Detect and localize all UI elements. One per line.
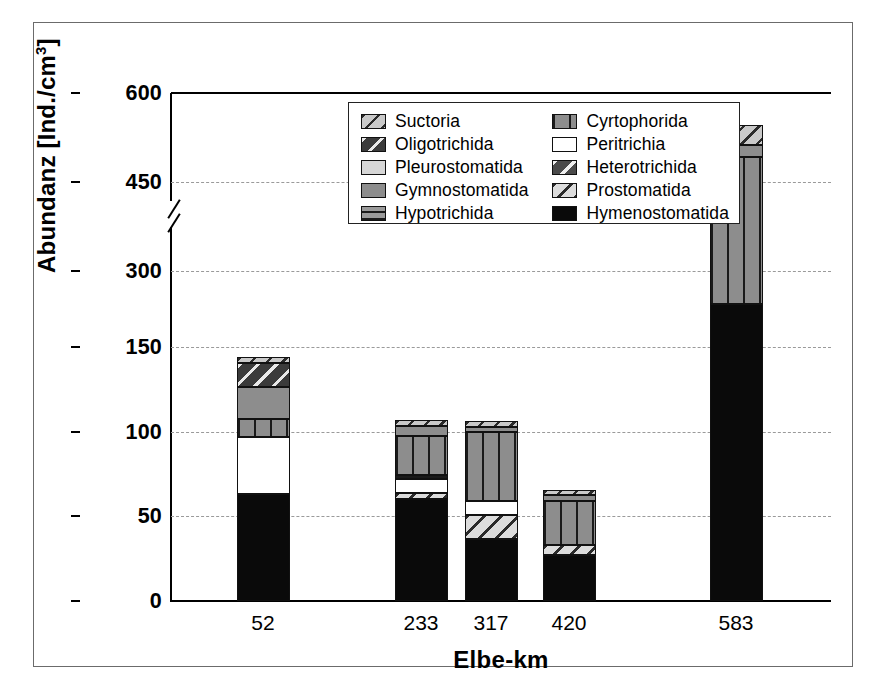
- x-axis-tick-label: 420: [551, 611, 586, 635]
- legend-grid: SuctoriaCyrtophoridaOligotrichidaPeritri…: [361, 110, 729, 225]
- legend-item-label: Suctoria: [395, 111, 460, 132]
- y-axis-tick-label: 600: [126, 81, 162, 106]
- legend-item-label: Heterotrichida: [586, 157, 696, 178]
- bar-stack[interactable]: [237, 357, 290, 601]
- legend-item[interactable]: Pleurostomatida: [361, 156, 536, 179]
- legend-item[interactable]: Peritrichia: [552, 133, 729, 156]
- bar-stack[interactable]: [543, 490, 596, 601]
- legend: SuctoriaCyrtophoridaOligotrichidaPeritri…: [348, 102, 740, 224]
- bar-segment[interactable]: [543, 501, 596, 545]
- bar-segment[interactable]: [465, 421, 518, 427]
- y-axis-tick: [71, 515, 80, 517]
- bar-segment[interactable]: [465, 432, 518, 501]
- bar-segment[interactable]: [395, 493, 448, 499]
- y-axis-tick-label: 100: [126, 419, 162, 444]
- legend-item[interactable]: Prostomatida: [552, 179, 729, 202]
- y-axis-title-main: Abundanz [Ind./cm: [33, 55, 60, 273]
- y-axis-tick: [71, 92, 80, 94]
- bar-segment[interactable]: [465, 501, 518, 515]
- legend-swatch-icon: [361, 114, 386, 129]
- bar-segment[interactable]: [710, 304, 763, 601]
- bar-stack[interactable]: [465, 421, 518, 601]
- y-axis-title: Abundanz [Ind./cm3]: [32, 0, 61, 273]
- bar-segment[interactable]: [543, 495, 596, 501]
- legend-item-label: Hymenostomatida: [586, 203, 729, 224]
- y-axis-tick-label: 0: [150, 589, 162, 614]
- legend-swatch-icon: [361, 160, 386, 175]
- x-axis-title: Elbe-km: [171, 646, 831, 674]
- bar-segment[interactable]: [395, 479, 448, 493]
- legend-item-label: Pleurostomatida: [395, 157, 523, 178]
- legend-item[interactable]: Oligotrichida: [361, 133, 536, 156]
- bar-segment[interactable]: [395, 475, 448, 479]
- bar-segment[interactable]: [395, 426, 448, 436]
- legend-item-label: Oligotrichida: [395, 134, 494, 155]
- legend-swatch-icon: [552, 114, 577, 129]
- legend-item[interactable]: Suctoria: [361, 110, 536, 133]
- legend-item-label: Prostomatida: [586, 180, 690, 201]
- bar-segment[interactable]: [465, 515, 518, 540]
- legend-item[interactable]: Heterotrichida: [552, 156, 729, 179]
- bar-segment[interactable]: [395, 436, 448, 475]
- legend-swatch-icon: [361, 183, 386, 198]
- legend-item[interactable]: Cyrtophorida: [552, 110, 729, 133]
- y-axis-tick-label: 150: [126, 335, 162, 360]
- bar-segment[interactable]: [237, 437, 290, 495]
- y-axis-title-exponent: 3: [32, 46, 49, 55]
- y-axis-title-bracket: ]: [33, 38, 60, 46]
- legend-item[interactable]: Gymnostomatida: [361, 179, 536, 202]
- legend-item-label: Gymnostomatida: [395, 180, 529, 201]
- y-axis-tick-label: 300: [126, 259, 162, 284]
- legend-swatch-icon: [552, 137, 577, 152]
- bar-segment[interactable]: [395, 499, 448, 601]
- bar-segment[interactable]: [543, 555, 596, 601]
- bar-segment[interactable]: [237, 363, 290, 387]
- y-axis-tick: [71, 600, 80, 602]
- bar-segment[interactable]: [237, 494, 290, 601]
- bar-segment[interactable]: [237, 387, 290, 419]
- y-axis-tick: [71, 270, 80, 272]
- bar-segment[interactable]: [395, 420, 448, 426]
- bar-stack[interactable]: [395, 420, 448, 601]
- bar-segment[interactable]: [543, 545, 596, 555]
- legend-swatch-icon: [361, 206, 386, 221]
- bar-segment[interactable]: [237, 357, 290, 363]
- y-axis-tick-label: 450: [126, 170, 162, 195]
- y-axis-tick: [71, 431, 80, 433]
- legend-item-label: Hypotrichida: [395, 203, 493, 224]
- legend-swatch-icon: [552, 160, 577, 175]
- y-axis-tick: [71, 181, 80, 183]
- legend-swatch-icon: [552, 183, 577, 198]
- legend-item-label: Cyrtophorida: [586, 111, 687, 132]
- y-axis-tick: [71, 346, 80, 348]
- legend-item[interactable]: Hymenostomatida: [552, 202, 729, 225]
- bar-segment[interactable]: [465, 539, 518, 601]
- bar-segment[interactable]: [237, 419, 290, 437]
- x-axis-tick-label: 583: [718, 611, 753, 635]
- legend-swatch-icon: [361, 137, 386, 152]
- x-axis-tick-label: 52: [251, 611, 274, 635]
- x-axis-tick-label: 317: [473, 611, 508, 635]
- legend-swatch-icon: [552, 206, 577, 221]
- bar-segment[interactable]: [543, 490, 596, 495]
- y-axis-tick-labels: 050100150300450600: [80, 93, 162, 601]
- figure-frame: Abundanz [Ind./cm3] 050100150300450600 5…: [33, 22, 853, 667]
- bar-segment[interactable]: [465, 427, 518, 432]
- legend-item[interactable]: Hypotrichida: [361, 202, 536, 225]
- x-axis-tick-label: 233: [403, 611, 438, 635]
- legend-item-label: Peritrichia: [586, 134, 665, 155]
- y-axis-tick-label: 50: [138, 504, 162, 529]
